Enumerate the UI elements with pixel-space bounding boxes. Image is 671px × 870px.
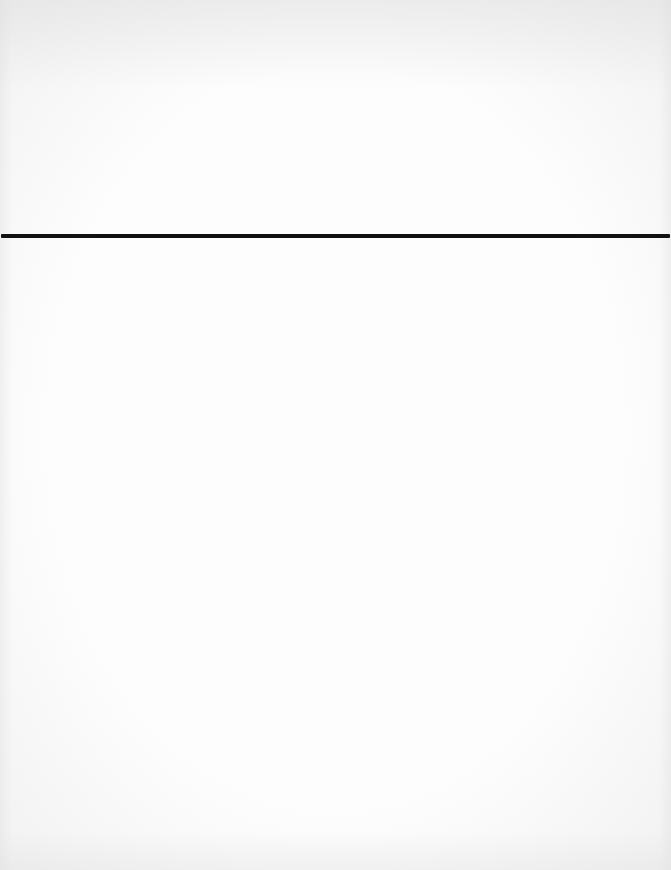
scan-edge-shading (0, 0, 671, 870)
horizontal-rule (1, 234, 670, 238)
document-page (0, 0, 671, 870)
